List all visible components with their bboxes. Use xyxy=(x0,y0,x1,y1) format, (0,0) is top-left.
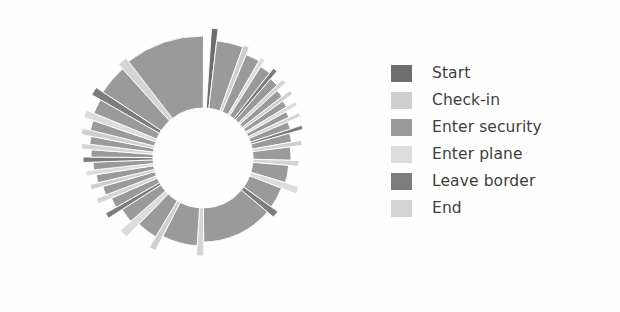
legend-swatch-check-in xyxy=(391,92,412,109)
legend-swatch-start xyxy=(391,65,412,82)
legend-swatch-enter-plane xyxy=(391,146,412,163)
legend-label-check-in: Check-in xyxy=(432,93,500,109)
legend-label-end: End xyxy=(432,201,462,217)
chart-legend: Start Check-in Enter security Enter plan… xyxy=(391,60,571,222)
legend-item-leave-border[interactable]: Leave border xyxy=(391,168,571,195)
legend-label-enter-security: Enter security xyxy=(432,120,542,136)
legend-label-start: Start xyxy=(432,66,470,82)
legend-item-end[interactable]: End xyxy=(391,195,571,222)
legend-item-enter-security[interactable]: Enter security xyxy=(391,114,571,141)
legend-item-start[interactable]: Start xyxy=(391,60,571,87)
legend-label-enter-plane: Enter plane xyxy=(432,147,523,163)
legend-swatch-enter-security xyxy=(391,119,412,136)
figure-canvas: Start Check-in Enter security Enter plan… xyxy=(0,0,620,312)
legend-item-enter-plane[interactable]: Enter plane xyxy=(391,141,571,168)
legend-label-leave-border: Leave border xyxy=(432,174,535,190)
legend-swatch-end xyxy=(391,200,412,217)
chart-segments-group xyxy=(81,28,303,256)
legend-item-check-in[interactable]: Check-in xyxy=(391,87,571,114)
legend-swatch-leave-border xyxy=(391,173,412,190)
